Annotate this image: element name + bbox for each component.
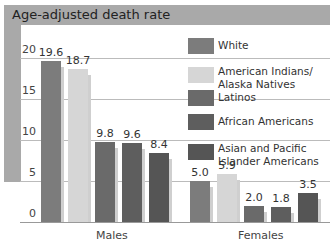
bar — [41, 61, 61, 222]
legend-label: White — [218, 39, 249, 52]
y-tick-label: 15 — [18, 84, 36, 97]
bar — [190, 181, 210, 222]
chart-title-bar: Age-adjusted death rate — [4, 5, 330, 25]
y-tick-label: 0 — [18, 207, 36, 220]
legend-swatch — [188, 144, 214, 160]
bar — [95, 142, 115, 222]
bar — [244, 206, 264, 222]
bar — [68, 69, 88, 222]
bar — [217, 174, 237, 222]
legend-swatch — [188, 67, 214, 83]
gridline — [20, 181, 330, 182]
bar — [298, 193, 318, 222]
legend-label: Latinos — [218, 91, 256, 104]
legend-swatch — [188, 90, 214, 106]
chart-title: Age-adjusted death rate — [12, 7, 170, 22]
gridline — [20, 222, 330, 223]
bar-value-label: 1.8 — [264, 192, 298, 205]
y-tick-label: 5 — [18, 166, 36, 179]
x-label-females: Females — [238, 229, 284, 242]
bar — [271, 207, 291, 222]
legend-label: Asian and PacificIslander Americans — [218, 142, 319, 168]
legend-label: American Indians/Alaska Natives — [218, 65, 313, 91]
legend-swatch — [188, 38, 214, 54]
legend-swatch — [188, 114, 214, 130]
y-tick-label: 10 — [18, 125, 36, 138]
bar-value-label: 3.5 — [291, 178, 325, 191]
bar — [149, 153, 169, 222]
bar-value-label: 8.4 — [142, 138, 176, 151]
gridline — [20, 99, 330, 100]
bar-value-label: 18.7 — [61, 54, 95, 67]
legend-label: African Americans — [218, 115, 313, 128]
bar — [122, 143, 142, 222]
x-label-males: Males — [96, 229, 128, 242]
